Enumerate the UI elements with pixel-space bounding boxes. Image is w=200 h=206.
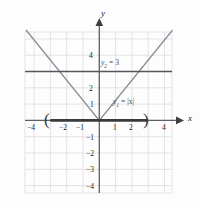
y-tick-label--4: −4 (86, 183, 94, 191)
y-tick-label--3: −3 (86, 166, 94, 174)
x-tick-label--1: −1 (76, 124, 84, 132)
y-axis (96, 18, 104, 193)
x-tick-label--4: −4 (27, 124, 35, 132)
line-label-y2: y2= 3 (101, 59, 119, 69)
coordinate-plane-svg (0, 0, 200, 206)
curve-label-y1-rest: = |x| (119, 97, 134, 106)
interval-right-paren: ) (143, 111, 149, 128)
x-tick-label--2: −2 (59, 124, 67, 132)
y-tick-label-1: 1 (90, 101, 94, 109)
line-label-y2-rest: = 3 (107, 58, 119, 67)
y-tick-label--1: −1 (86, 134, 94, 142)
x-tick-label-1: 1 (113, 124, 117, 132)
graph-figure: y x −4 −2 −1 1 2 4 4 2 1 −1 −2 −3 −4 y2=… (0, 0, 200, 206)
interval-left-paren: ( (44, 111, 50, 128)
y-tick-label-4: 4 (89, 52, 93, 60)
y-tick-label--2: −2 (86, 150, 94, 158)
x-tick-label-4: 4 (162, 124, 166, 132)
x-tick-label-2: 2 (129, 124, 133, 132)
curve-label-y1: y1= |x| (113, 98, 134, 108)
x-axis-label: x (188, 114, 192, 123)
y-tick-label-2: 2 (89, 85, 93, 93)
y-axis-label: y (101, 9, 105, 18)
